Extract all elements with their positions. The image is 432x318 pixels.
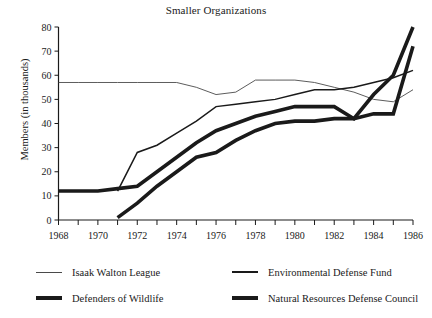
y-tick-label: 50: [42, 94, 52, 105]
series-line-environmental-defense-fund: [118, 70, 413, 191]
y-tick-label: 0: [47, 215, 52, 226]
y-tick-label: 40: [42, 118, 52, 129]
y-tick-label: 70: [42, 46, 52, 57]
x-tick-label: 1974: [167, 230, 187, 241]
legend-label: Defenders of Wildlife: [72, 293, 164, 304]
legend-row: Defenders of Wildlife Natural Resources …: [36, 286, 428, 310]
legend-swatch-icon: [232, 271, 258, 273]
legend-item-environmental-defense-fund[interactable]: Environmental Defense Fund: [232, 260, 428, 284]
x-tick-label: 1982: [324, 230, 344, 241]
x-tick-label: 1968: [49, 230, 69, 241]
series-group: [59, 27, 414, 218]
y-tick-group: 01020304050607080: [42, 22, 59, 226]
series-line-defenders-of-wildlife: [59, 27, 414, 191]
y-tick-label: 80: [42, 22, 52, 33]
y-tick-label: 60: [42, 70, 52, 81]
legend-item-isaak-walton-league[interactable]: Isaak Walton League: [36, 260, 232, 284]
x-tick-label: 1980: [285, 230, 305, 241]
y-tick-label: 20: [42, 166, 52, 177]
legend-label: Isaak Walton League: [72, 267, 160, 278]
y-tick-label: 10: [42, 190, 52, 201]
x-tick-label: 1972: [127, 230, 147, 241]
legend-swatch-icon: [232, 296, 258, 299]
legend-label: Environmental Defense Fund: [268, 267, 392, 278]
x-tick-group: 1968197019721974197619781980198219841986: [49, 220, 424, 241]
legend-item-defenders-of-wildlife[interactable]: Defenders of Wildlife: [36, 286, 232, 310]
legend-label: Natural Resources Defense Council: [268, 293, 418, 304]
x-tick-label: 1970: [88, 230, 108, 241]
x-tick-label: 1984: [364, 230, 384, 241]
x-tick-label: 1976: [206, 230, 226, 241]
legend-swatch-icon: [36, 272, 62, 273]
legend-row: Isaak Walton League Environmental Defens…: [36, 260, 428, 284]
chart-legend: Isaak Walton League Environmental Defens…: [36, 258, 428, 314]
x-tick-label: 1986: [403, 230, 423, 241]
legend-swatch-icon: [36, 296, 62, 300]
x-tick-label: 1978: [245, 230, 265, 241]
series-line-natural-resources-defense-council: [118, 46, 413, 217]
legend-item-natural-resources-defense-council[interactable]: Natural Resources Defense Council: [232, 286, 428, 310]
chart-figure: Smaller Organizations Members (in thousa…: [0, 0, 432, 318]
y-tick-label: 30: [42, 142, 52, 153]
series-line-isaak-walton-league: [59, 80, 414, 102]
